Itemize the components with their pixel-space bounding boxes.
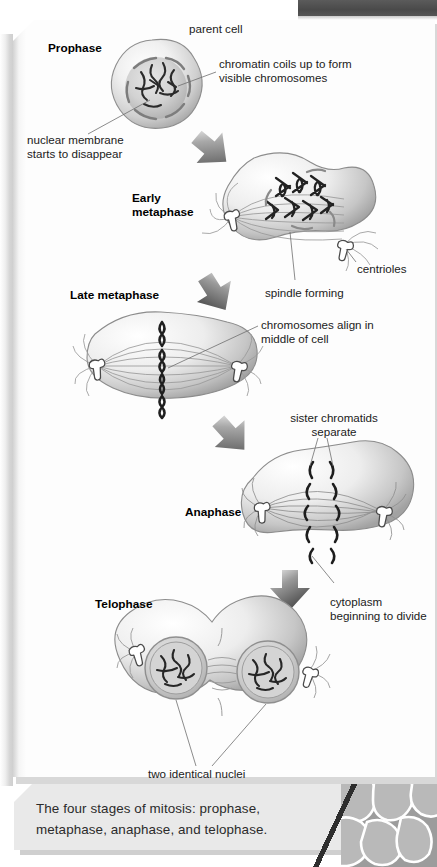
caption-text: The four stages of mitosis: prophase, me… bbox=[36, 798, 306, 840]
stage-label-anaphase: Anaphase bbox=[185, 506, 241, 520]
page-spine bbox=[0, 34, 13, 786]
annotation-chromatin: chromatin coils up to form visible chrom… bbox=[219, 57, 352, 84]
annotation-centrioles: centrioles bbox=[357, 262, 407, 276]
annotation-parent-cell: parent cell bbox=[189, 22, 243, 36]
stage-label-early-metaphase: Early metaphase bbox=[132, 192, 194, 220]
annotation-nuclear-membrane: nuclear membrane starts to disappear bbox=[27, 133, 124, 160]
tissue-photo-corner bbox=[341, 784, 437, 867]
stage-label-prophase: Prophase bbox=[48, 42, 102, 56]
book-top-edge bbox=[298, 0, 437, 16]
book-top-edge-shadow bbox=[298, 16, 437, 20]
annotation-chromosomes-align: chromosomes align in middle of cell bbox=[261, 318, 374, 345]
figure-root: Prophase Early metaphase Late metaphase … bbox=[0, 0, 437, 867]
annotation-sister-chromatids: sister chromatids separate bbox=[280, 411, 388, 438]
stage-label-late-metaphase: Late metaphase bbox=[70, 289, 159, 303]
annotation-two-nuclei: two identical nuclei bbox=[148, 767, 245, 781]
annotation-spindle: spindle forming bbox=[265, 286, 344, 300]
annotation-cytoplasm: cytoplasm beginning to divide bbox=[330, 595, 427, 622]
stage-label-telophase: Telophase bbox=[95, 598, 152, 612]
